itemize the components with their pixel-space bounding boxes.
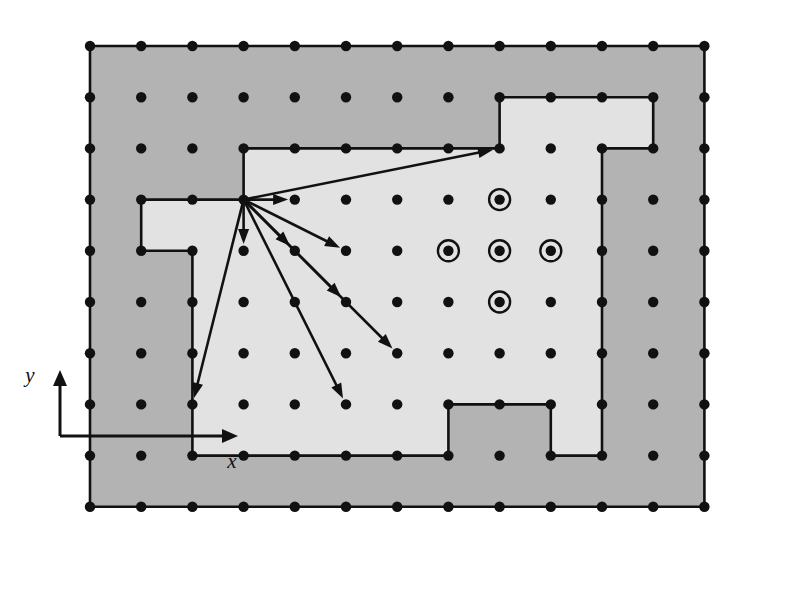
grid-node: [290, 399, 300, 409]
grid-node: [136, 450, 146, 460]
grid-node: [290, 143, 300, 153]
grid-node: [136, 297, 146, 307]
grid-node: [290, 246, 300, 256]
grid-node: [238, 41, 248, 51]
grid-node: [187, 348, 197, 358]
y-axis-label: y: [23, 363, 35, 387]
grid-node: [341, 194, 351, 204]
grid-node: [597, 348, 607, 358]
grid-node: [187, 92, 197, 102]
grid-node: [187, 246, 197, 256]
grid-node: [597, 41, 607, 51]
grid-node: [238, 143, 248, 153]
grid-node: [546, 348, 556, 358]
grid-node: [392, 194, 402, 204]
grid-node: [187, 399, 197, 409]
grid-node: [494, 92, 504, 102]
grid-node: [699, 246, 709, 256]
grid-node: [546, 502, 556, 512]
grid-node: [290, 194, 300, 204]
grid-node: [136, 348, 146, 358]
grid-node: [290, 41, 300, 51]
grid-node: [85, 348, 95, 358]
grid-node: [238, 92, 248, 102]
grid-node: [546, 297, 556, 307]
grid-node: [238, 194, 248, 204]
grid-node: [494, 502, 504, 512]
grid-node: [546, 92, 556, 102]
grid-node: [136, 143, 146, 153]
grid-node: [443, 41, 453, 51]
grid-node: [187, 41, 197, 51]
grid-node: [597, 450, 607, 460]
diagram-canvas: xy: [0, 0, 786, 603]
grid-node: [597, 194, 607, 204]
grid-node: [85, 399, 95, 409]
grid-node: [443, 348, 453, 358]
stencil-node-center: [546, 246, 555, 255]
grid-node: [699, 450, 709, 460]
grid-node: [392, 502, 402, 512]
grid-node: [597, 502, 607, 512]
grid-node: [290, 450, 300, 460]
grid-node: [341, 41, 351, 51]
grid-node: [648, 348, 658, 358]
grid-node: [699, 143, 709, 153]
grid-node: [699, 399, 709, 409]
grid-node: [238, 246, 248, 256]
grid-node: [699, 502, 709, 512]
grid-node: [85, 246, 95, 256]
grid-node: [392, 348, 402, 358]
grid-node: [392, 450, 402, 460]
grid-node: [238, 348, 248, 358]
grid-node: [546, 450, 556, 460]
grid-node: [187, 194, 197, 204]
grid-node: [85, 41, 95, 51]
stencil-node-center: [495, 246, 504, 255]
grid-node: [238, 297, 248, 307]
grid-node: [341, 399, 351, 409]
grid-node: [290, 92, 300, 102]
grid-node: [136, 92, 146, 102]
grid-node: [392, 297, 402, 307]
grid-node: [85, 450, 95, 460]
grid-node: [341, 143, 351, 153]
grid-node: [546, 194, 556, 204]
grid-node: [443, 297, 453, 307]
grid-node: [546, 399, 556, 409]
grid-node: [187, 297, 197, 307]
grid-node: [136, 399, 146, 409]
grid-node: [494, 41, 504, 51]
grid-node: [392, 399, 402, 409]
grid-node: [443, 92, 453, 102]
grid-node: [85, 502, 95, 512]
grid-node: [238, 502, 248, 512]
grid-node: [290, 297, 300, 307]
x-axis-label: x: [226, 449, 237, 473]
grid-node: [85, 297, 95, 307]
grid-node: [597, 143, 607, 153]
grid-node: [648, 41, 658, 51]
stencil-node-center: [444, 246, 453, 255]
grid-node: [443, 194, 453, 204]
grid-node: [392, 41, 402, 51]
grid-node: [238, 399, 248, 409]
grid-node: [85, 92, 95, 102]
grid-node: [290, 348, 300, 358]
grid-node: [341, 450, 351, 460]
stencil-node-center: [495, 297, 504, 306]
grid-node: [494, 399, 504, 409]
grid-node: [85, 143, 95, 153]
grid-node: [648, 194, 658, 204]
grid-node: [443, 399, 453, 409]
grid-node: [648, 143, 658, 153]
grid-node: [187, 502, 197, 512]
grid-node: [187, 450, 197, 460]
grid-node: [136, 246, 146, 256]
grid-node: [546, 41, 556, 51]
grid-node: [341, 348, 351, 358]
grid-node: [699, 348, 709, 358]
grid-node: [699, 41, 709, 51]
grid-node: [648, 399, 658, 409]
grid-node: [392, 92, 402, 102]
